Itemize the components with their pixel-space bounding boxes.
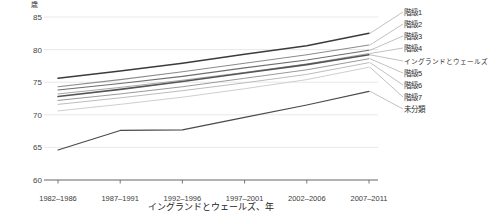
legend-item: 階級3 — [404, 32, 422, 41]
legend-leader-line — [370, 67, 403, 97]
y-axis: 606570758085 — [0, 0, 42, 219]
legend-leader-line — [370, 12, 403, 33]
series-line — [58, 50, 369, 90]
legend-leader-line — [370, 91, 403, 109]
legend-leader-line — [370, 55, 403, 61]
y-axis-tick-label: 70 — [6, 110, 42, 119]
series-line — [58, 63, 369, 105]
legend-item: イングランドとウェールズ — [404, 57, 488, 66]
legend-item: 未分類 — [404, 105, 425, 114]
y-axis-tick-label: 85 — [6, 13, 42, 22]
y-axis-tick-label: 65 — [6, 143, 42, 152]
series-line — [58, 59, 369, 101]
legend-item: 階級5 — [404, 69, 422, 78]
y-axis-tick-label: 80 — [6, 45, 42, 54]
legend-item: 階級7 — [404, 93, 422, 102]
legend-leader-line — [370, 24, 403, 45]
series-line — [58, 45, 369, 87]
chart-root: 歳 606570758085 1982–19861987–19911992–19… — [0, 0, 492, 219]
y-axis-tick-label: 60 — [6, 176, 42, 185]
legend-item: 階級6 — [404, 81, 422, 90]
legend-leader-line — [370, 36, 403, 50]
legend-item: 階級4 — [404, 44, 422, 53]
series-line — [58, 54, 369, 94]
x-axis-title: イングランドとウェールズ、年 — [44, 200, 378, 213]
series-line — [58, 91, 369, 150]
legend-item: 階級2 — [404, 20, 422, 29]
legend-item: 階級1 — [404, 8, 422, 17]
legend-leader-lines — [370, 0, 404, 219]
legend-leader-line — [370, 48, 403, 54]
legend: 階級1階級2階級3階級4イングランドとウェールズ階級5階級6階級7未分類 — [404, 0, 492, 219]
y-axis-tick-label: 75 — [6, 78, 42, 87]
